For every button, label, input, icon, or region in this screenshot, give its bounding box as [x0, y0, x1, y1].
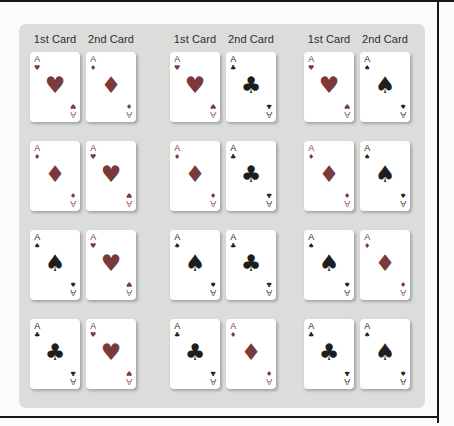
card-ace-of-clubs: A♣♣A♣ [226, 141, 276, 211]
card-rank-label: A [210, 199, 216, 208]
card-ace-of-diamonds: A♦♦A♦ [30, 141, 80, 211]
card-ace-of-spades: A♠♠A♠ [360, 141, 410, 211]
spade-icon: ♠ [344, 280, 350, 287]
card-rank-label: A [400, 288, 406, 297]
card-pair-row: A♠♠A♠A♦♦A♦ [304, 230, 410, 300]
card-pair-group: 1st Card2nd CardA♥♥A♥A♣♣A♣A♦♦A♦A♣♣A♣A♠♠A… [170, 33, 276, 389]
card-ace-of-spades: A♠♠A♠ [360, 52, 410, 122]
frame-bottom-border [0, 416, 439, 418]
heart-icon: ♥ [126, 191, 132, 198]
card-corner-index: A♣ [344, 369, 350, 386]
card-pair-row: A♦♦A♦A♥♥A♥ [30, 141, 136, 211]
card-ace-of-spades: A♠♠A♠ [170, 230, 220, 300]
card-corner-index: A♥ [126, 369, 132, 386]
heart-icon: ♥ [126, 280, 132, 287]
card-ace-of-clubs: A♣♣A♣ [226, 52, 276, 122]
card-corner-index: A♣ [266, 102, 272, 119]
club-icon: ♣ [266, 102, 272, 109]
diamond-icon: ♦ [266, 369, 272, 376]
card-ace-of-diamonds: A♦♦A♦ [170, 141, 220, 211]
card-corner-index: A♦ [344, 191, 350, 208]
card-rank-label: A [344, 377, 350, 386]
card-corner-index: A♥ [70, 102, 76, 119]
card-corner-index: A♥ [344, 102, 350, 119]
card-ace-of-clubs: A♣♣A♣ [304, 319, 354, 389]
card-corner-index: A♥ [210, 102, 216, 119]
card-pair-row: A♥♥A♥A♠♠A♠ [304, 52, 410, 122]
card-corner-index: A♣ [266, 191, 272, 208]
card-corner-index: A♦ [210, 191, 216, 208]
card-pair-row: A♦♦A♦A♠♠A♠ [304, 141, 410, 211]
card-corner-index: A♠ [400, 191, 406, 208]
card-pair-row: A♠♠A♠A♥♥A♥ [30, 230, 136, 300]
card-ace-of-hearts: A♥♥A♥ [30, 52, 80, 122]
spade-icon: ♠ [400, 369, 406, 376]
card-corner-index: A♥ [126, 280, 132, 297]
card-pair-group: 1st Card2nd CardA♥♥A♥A♠♠A♠A♦♦A♦A♠♠A♠A♠♠A… [304, 33, 410, 389]
card-ace-of-diamonds: A♦♦A♦ [304, 141, 354, 211]
card-ace-of-diamonds: A♦♦A♦ [226, 319, 276, 389]
card-pair-row: A♠♠A♠A♣♣A♣ [170, 230, 276, 300]
card-corner-index: A♦ [126, 102, 132, 119]
card-rank-label: A [70, 288, 76, 297]
club-icon: ♣ [266, 191, 272, 198]
card-rank-label: A [266, 377, 272, 386]
card-pair-row: A♥♥A♥A♣♣A♣ [170, 52, 276, 122]
card-pair-row: A♣♣A♣A♠♠A♠ [304, 319, 410, 389]
diamond-icon: ♦ [126, 102, 132, 109]
heart-icon: ♥ [344, 102, 350, 109]
card-pair-row: A♦♦A♦A♣♣A♣ [170, 141, 276, 211]
card-rows: A♥♥A♥A♠♠A♠A♦♦A♦A♠♠A♠A♠♠A♠A♦♦A♦A♣♣A♣A♠♠A♠ [304, 52, 410, 389]
card-rank-label: A [126, 288, 132, 297]
card-rank-label: A [70, 199, 76, 208]
card-rank-label: A [210, 110, 216, 119]
card-rank-label: A [266, 199, 272, 208]
card-rank-label: A [210, 377, 216, 386]
card-corner-index: A♦ [400, 280, 406, 297]
diamond-icon: ♦ [400, 280, 406, 287]
card-corner-index: A♠ [70, 280, 76, 297]
card-corner-index: A♠ [400, 369, 406, 386]
diamond-icon: ♦ [210, 191, 216, 198]
card-corner-index: A♠ [400, 102, 406, 119]
card-corner-index: A♠ [344, 280, 350, 297]
frame-top-border [0, 0, 454, 2]
spade-icon: ♠ [70, 280, 76, 287]
diamond-icon: ♦ [70, 191, 76, 198]
card-ace-of-diamonds: A♦♦A♦ [86, 52, 136, 122]
heart-icon: ♥ [70, 102, 76, 109]
card-rank-label: A [344, 288, 350, 297]
card-corner-index: A♣ [70, 369, 76, 386]
card-rank-label: A [70, 377, 76, 386]
card-rank-label: A [344, 110, 350, 119]
frame-right-border [437, 0, 439, 423]
card-rank-label: A [210, 288, 216, 297]
heart-icon: ♥ [126, 369, 132, 376]
card-ace-of-hearts: A♥♥A♥ [86, 319, 136, 389]
spade-icon: ♠ [400, 191, 406, 198]
card-pairs-panel: 1st Card2nd CardA♥♥A♥A♦♦A♦A♦♦A♦A♥♥A♥A♠♠A… [19, 24, 425, 408]
card-corner-index: A♦ [70, 191, 76, 208]
club-icon: ♣ [210, 369, 216, 376]
spade-icon: ♠ [400, 102, 406, 109]
club-icon: ♣ [344, 369, 350, 376]
card-rank-label: A [70, 110, 76, 119]
card-ace-of-clubs: A♣♣A♣ [226, 230, 276, 300]
card-rank-label: A [400, 110, 406, 119]
card-ace-of-clubs: A♣♣A♣ [30, 319, 80, 389]
card-rank-label: A [344, 199, 350, 208]
card-corner-index: A♥ [126, 191, 132, 208]
card-ace-of-hearts: A♥♥A♥ [86, 141, 136, 211]
card-pair-row: A♣♣A♣A♥♥A♥ [30, 319, 136, 389]
card-rank-label: A [266, 110, 272, 119]
card-pair-group: 1st Card2nd CardA♥♥A♥A♦♦A♦A♦♦A♦A♥♥A♥A♠♠A… [30, 33, 136, 389]
heart-icon: ♥ [210, 102, 216, 109]
card-rank-label: A [126, 110, 132, 119]
spade-icon: ♠ [210, 280, 216, 287]
card-rank-label: A [266, 288, 272, 297]
card-ace-of-hearts: A♥♥A♥ [170, 52, 220, 122]
card-rank-label: A [400, 377, 406, 386]
card-ace-of-hearts: A♥♥A♥ [304, 52, 354, 122]
card-pair-row: A♣♣A♣A♦♦A♦ [170, 319, 276, 389]
card-corner-index: A♠ [210, 280, 216, 297]
